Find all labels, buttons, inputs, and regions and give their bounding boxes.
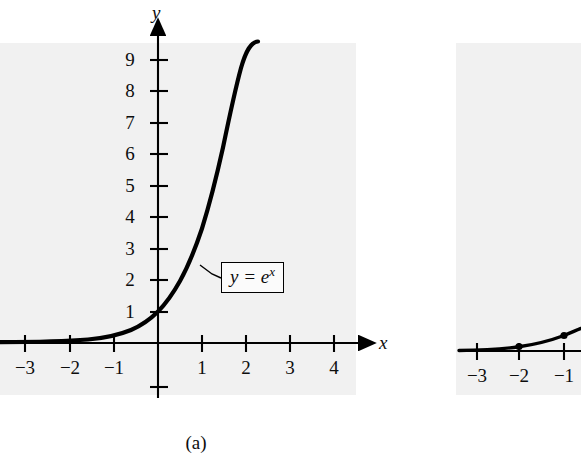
figure-exponential-graph: y x −3 −2 −1 1 2 3 4 1 2 3 4 5 6 7 8 9 y… (0, 0, 581, 467)
curve-equation-exponent: x (269, 264, 275, 279)
curve-equation-callout: y = ex (221, 262, 284, 293)
x-tick-label: −3 (8, 358, 42, 377)
callout-leader-line (200, 265, 221, 278)
y-axis-label: y (152, 2, 160, 24)
y-tick-label: 9 (118, 50, 142, 69)
x-tick-label: −2 (53, 358, 87, 377)
y-tick-label: 8 (118, 81, 142, 100)
x-axis-label: x (379, 332, 387, 354)
y-tick-label: 1 (118, 302, 142, 321)
curve-equation-text: y = e (230, 266, 269, 287)
x-tick-label: 3 (278, 358, 302, 377)
panel-b-x-tick-label: −2 (502, 366, 536, 385)
panel-b-data-point (560, 332, 567, 339)
y-tick-label: 5 (118, 176, 142, 195)
figure-caption: (a) (166, 432, 226, 454)
panel-b-data-point (515, 343, 522, 350)
y-tick-label: 4 (118, 207, 142, 226)
plot-vector-layer (0, 0, 581, 467)
x-tick-label: 2 (234, 358, 258, 377)
x-tick-label: 4 (322, 358, 346, 377)
panel-b-x-tick-label: −3 (460, 366, 494, 385)
x-tick-label: −1 (97, 358, 131, 377)
x-tick-label: 1 (190, 358, 214, 377)
panel-b-x-tick-label: −1 (547, 366, 581, 385)
y-tick-label: 6 (118, 144, 142, 163)
y-tick-label: 7 (118, 113, 142, 132)
y-tick-label: 3 (118, 239, 142, 258)
y-tick-label: 2 (118, 270, 142, 289)
